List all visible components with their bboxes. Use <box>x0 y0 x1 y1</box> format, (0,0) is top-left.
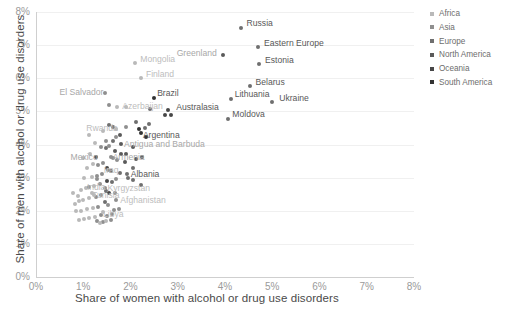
point-label: Moldova <box>232 109 264 119</box>
point-label: Mexico <box>70 152 97 162</box>
data-point <box>169 113 173 117</box>
gridline-horizontal <box>36 277 414 278</box>
scatter-chart: 0%1%2%3%4%5%6%7%8% 0%1%2%3%4%5%6%7%8% Ru… <box>0 0 514 313</box>
legend-item-europe[interactable]: Europe <box>430 35 514 47</box>
data-point <box>77 218 81 222</box>
x-tick-label: 5% <box>257 281 287 292</box>
data-point <box>101 161 105 165</box>
data-point <box>87 196 91 200</box>
gridline-horizontal <box>36 211 414 212</box>
data-point <box>82 217 86 221</box>
data-point <box>91 162 95 166</box>
data-point <box>114 177 118 181</box>
data-point-labeled <box>133 61 137 65</box>
x-tick-label: 6% <box>305 281 335 292</box>
data-point-labeled <box>257 62 261 66</box>
data-point <box>91 206 95 210</box>
data-point <box>82 176 86 180</box>
data-point-labeled <box>226 117 230 121</box>
data-point-labeled <box>229 97 233 101</box>
data-point <box>81 198 85 202</box>
point-label: Australasia <box>176 102 219 112</box>
point-label: Mongolia <box>140 54 175 64</box>
data-point <box>79 188 83 192</box>
point-label: Libya <box>103 209 124 219</box>
legend-item-africa[interactable]: Africa <box>430 8 514 20</box>
legend-item-asia[interactable]: Asia <box>430 22 514 34</box>
legend-label: South America <box>439 78 492 87</box>
data-point <box>134 120 138 124</box>
data-point <box>79 209 83 213</box>
data-point <box>77 199 81 203</box>
legend-label: North America <box>439 50 491 59</box>
point-label: El Salvador <box>59 87 103 97</box>
data-point-labeled <box>248 84 252 88</box>
data-point-labeled <box>152 96 156 100</box>
point-label: Iraq <box>104 165 119 175</box>
data-point <box>93 141 97 145</box>
point-label: Greenland <box>177 48 217 58</box>
data-point <box>71 191 75 195</box>
point-label: Belarus <box>256 77 285 87</box>
x-tick-label: 1% <box>68 281 98 292</box>
legend-swatch-icon <box>430 80 434 84</box>
x-tick-label: 4% <box>210 281 240 292</box>
y-axis-line <box>36 12 37 277</box>
data-point-labeled <box>270 100 274 104</box>
point-label: Russia <box>247 18 273 28</box>
data-point-labeled <box>221 53 225 57</box>
x-axis-title: Share of women with alcohol or drug use … <box>0 292 414 304</box>
data-point <box>74 209 78 213</box>
data-point <box>95 177 99 181</box>
legend-label: Europe <box>439 37 465 46</box>
data-point <box>99 145 103 149</box>
legend-swatch-icon <box>430 25 434 29</box>
data-point-labeled <box>239 26 243 30</box>
gridline-horizontal <box>36 12 414 13</box>
data-point <box>111 139 115 143</box>
x-tick-label: 7% <box>352 281 382 292</box>
data-point <box>118 133 122 137</box>
gridline-horizontal <box>36 78 414 79</box>
point-label: Brazil <box>157 88 179 98</box>
legend-item-south-america[interactable]: South America <box>430 76 514 88</box>
gridline-horizontal <box>36 145 414 146</box>
point-label: Ukraine <box>279 93 309 103</box>
legend-label: Africa <box>439 9 460 18</box>
data-point <box>163 113 167 117</box>
gridline-horizontal <box>36 45 414 46</box>
data-point <box>124 125 128 129</box>
data-point <box>126 176 130 180</box>
legend-label: Asia <box>439 23 455 32</box>
data-point-labeled <box>139 76 143 80</box>
data-point <box>76 194 80 198</box>
gridline-horizontal <box>36 244 414 245</box>
data-point <box>137 127 141 131</box>
y-axis-title: Share of men with alcohol or drug use di… <box>14 0 26 278</box>
legend-item-north-america[interactable]: North America <box>430 49 514 61</box>
data-point <box>96 205 100 209</box>
point-label: Albania <box>131 169 160 179</box>
gridline-horizontal <box>36 111 414 112</box>
x-tick-label: 2% <box>116 281 146 292</box>
legend-label: Oceania <box>439 64 470 73</box>
point-label: Antigua and Barbuda <box>124 139 205 149</box>
point-label: Azerbaijan <box>122 101 163 111</box>
data-point-labeled <box>103 91 107 95</box>
data-point <box>147 122 151 126</box>
legend-item-oceania[interactable]: Oceania <box>430 63 514 75</box>
data-point <box>96 163 100 167</box>
data-point <box>107 103 111 107</box>
point-label: Eastern Europe <box>264 38 324 48</box>
point-label: Armenia <box>113 152 145 162</box>
point-label: Tunisia <box>92 190 119 200</box>
legend-swatch-icon <box>430 67 434 71</box>
point-label: Finland <box>146 69 174 79</box>
legend-swatch-icon <box>430 12 434 16</box>
data-point <box>73 202 77 206</box>
data-point-labeled <box>119 142 123 146</box>
legend-swatch-icon <box>430 39 434 43</box>
data-point <box>98 221 102 225</box>
x-tick-label: 0% <box>21 281 51 292</box>
point-label: Lithuania <box>235 89 270 99</box>
